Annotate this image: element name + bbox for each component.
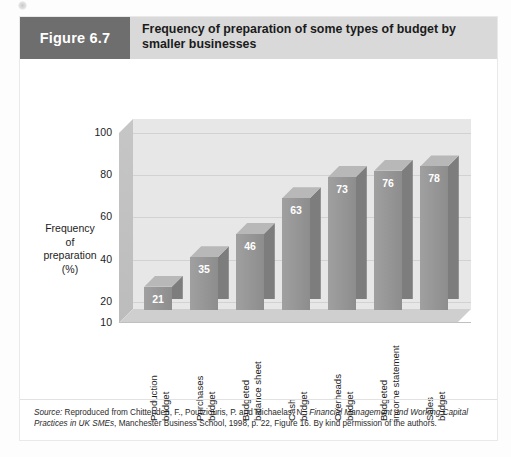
bar-6: 78 xyxy=(420,155,448,310)
source-label: Source: xyxy=(34,408,62,417)
bar-1: 35 xyxy=(190,246,218,310)
bar-side-face xyxy=(356,166,367,299)
bar-side-face xyxy=(402,160,413,299)
figure-page: Figure 6.7 Frequency of preparation of s… xyxy=(0,0,511,457)
bar-0: 21 xyxy=(144,276,172,310)
source-note: Source: Reproduced from Chittenden, F., … xyxy=(34,407,483,430)
figure-header: Figure 6.7 Frequency of preparation of s… xyxy=(20,17,497,59)
bar-side-face xyxy=(264,223,275,299)
y-axis-title: Frequency of preparation (%) xyxy=(30,222,110,276)
gridline-100 xyxy=(133,133,471,134)
bar-front-face xyxy=(374,171,402,310)
plot-side-wall xyxy=(119,119,133,323)
y-tick-100: 100 xyxy=(86,126,112,138)
figure-panel: Figure 6.7 Frequency of preparation of s… xyxy=(20,17,497,440)
source-note-area: Source: Reproduced from Chittenden, F., … xyxy=(20,399,497,440)
figure-title: Frequency of preparation of some types o… xyxy=(142,22,489,52)
bar-5: 76 xyxy=(374,160,402,310)
plot-3d: 21354663737678 xyxy=(119,119,471,324)
bar-value-label-0: 21 xyxy=(144,293,172,305)
y-tick-40: 40 xyxy=(86,253,112,265)
y-tick-60: 60 xyxy=(86,210,112,222)
bar-value-label-1: 35 xyxy=(190,263,218,275)
bar-front-face xyxy=(328,177,356,310)
scan-speck xyxy=(18,1,27,10)
bar-4: 73 xyxy=(328,166,356,310)
bar-value-label-5: 76 xyxy=(374,177,402,189)
bar-value-label-3: 63 xyxy=(282,204,310,216)
bar-value-label-6: 78 xyxy=(420,172,448,184)
y-tick-20: 20 xyxy=(86,295,112,307)
y-tick-10: 10 xyxy=(86,316,112,328)
bar-front-face xyxy=(420,166,448,310)
figure-number-label: Figure 6.7 xyxy=(40,30,111,46)
y-tick-80: 80 xyxy=(86,168,112,180)
source-text-2: , Manchester Business School, 1998, p. 2… xyxy=(114,419,437,428)
plot-floor xyxy=(119,309,471,323)
bar-2: 46 xyxy=(236,223,264,310)
y-axis-title-line-1: Frequency xyxy=(30,222,110,236)
bar-value-label-4: 73 xyxy=(328,183,356,195)
source-text-1: Reproduced from Chittenden, F., Poutziou… xyxy=(62,408,309,417)
figure-number-badge: Figure 6.7 xyxy=(20,17,130,59)
bar-side-face xyxy=(310,187,321,299)
bar-side-face xyxy=(448,155,459,299)
y-axis-title-line-2: of xyxy=(30,236,110,250)
bar-value-label-2: 46 xyxy=(236,240,264,252)
chart-area: Frequency of preparation (%) 10080604020… xyxy=(20,59,497,399)
plot-floor-edge xyxy=(119,322,471,323)
bar-3: 63 xyxy=(282,187,310,310)
